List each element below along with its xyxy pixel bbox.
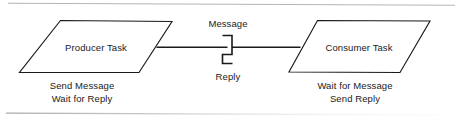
diagram-canvas: Producer Task Send Message Wait for Repl… bbox=[0, 0, 462, 122]
consumer-task-label: Consumer Task bbox=[300, 42, 418, 53]
page-rule-bottom bbox=[6, 113, 456, 115]
message-edge-label: Message bbox=[192, 18, 264, 29]
consumer-task-caption: Wait for Message Send Reply bbox=[292, 80, 418, 105]
producer-task-caption: Send Message Wait for Reply bbox=[22, 80, 142, 105]
consumer-caption-line-2: Send Reply bbox=[292, 93, 418, 106]
page-rule-top bbox=[8, 3, 455, 5]
rendezvous-bracket[interactable] bbox=[223, 36, 233, 64]
producer-caption-line-1: Send Message bbox=[22, 80, 142, 93]
producer-task-label: Producer Task bbox=[42, 42, 150, 53]
reply-edge-label: Reply bbox=[198, 71, 258, 82]
producer-caption-line-2: Wait for Reply bbox=[22, 93, 142, 106]
consumer-caption-line-1: Wait for Message bbox=[292, 80, 418, 93]
